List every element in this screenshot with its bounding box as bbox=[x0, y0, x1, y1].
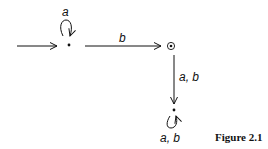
state-q2 bbox=[173, 109, 176, 112]
figure-caption: Figure 2.1 bbox=[215, 131, 262, 143]
state-q0 bbox=[68, 44, 71, 47]
label-q2-loop: a, b bbox=[160, 131, 180, 145]
self-loop-q2 bbox=[167, 116, 177, 128]
state-q1 bbox=[170, 45, 173, 48]
label-q0-q1: b bbox=[119, 31, 126, 45]
label-q1-q2: a, b bbox=[179, 70, 199, 84]
automaton-diagram: a b a, b a, b Figure 2.1 bbox=[0, 0, 268, 149]
label-q0-loop: a bbox=[62, 5, 69, 19]
self-loop-q0 bbox=[61, 20, 72, 36]
